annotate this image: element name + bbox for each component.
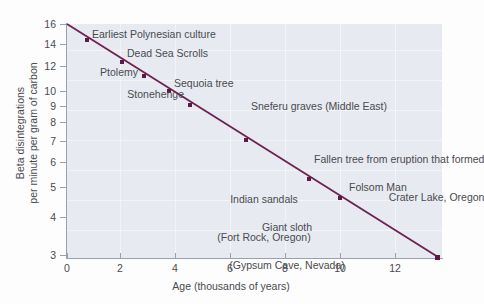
data-point-ptolemy (142, 74, 146, 78)
annotation-giant-sloth: Giant sloth (Gypsum Cave, Nevada) (212, 196, 362, 296)
annotation-folsom-man: Folsom Man (349, 181, 407, 194)
annotation-sneferu-graves: Sneferu graves (Middle East) (251, 100, 387, 113)
annotation-dead-sea-scrolls: Dead Sea Scrolls (127, 47, 208, 60)
annotation-giant-sloth-line1: Giant sloth (212, 221, 362, 234)
annotation-fallen-tree-line1: Fallen tree from eruption that formed (314, 153, 484, 166)
data-point-earliest-polynesian-culture (85, 38, 89, 42)
annotation-ptolemy: Ptolemy (51, 66, 138, 79)
annotation-earliest-polynesian-culture: Earliest Polynesian culture (92, 28, 216, 41)
data-point-giant-sloth (435, 255, 440, 260)
data-point-sneferu-graves (244, 138, 248, 142)
annotation-stonehenge: Stonehenge (88, 88, 184, 101)
data-point-dead-sea-scrolls (120, 60, 124, 64)
data-point-stonehenge (188, 103, 192, 107)
annotation-giant-sloth-line2: (Gypsum Cave, Nevada) (212, 259, 362, 272)
